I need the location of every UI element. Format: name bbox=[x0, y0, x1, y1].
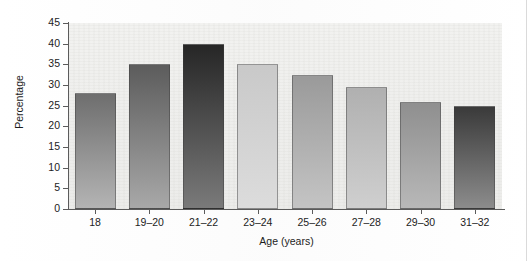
x-axis-label: Age (years) bbox=[68, 235, 505, 247]
x-axis-tick-label: 21–22 bbox=[174, 216, 234, 228]
bar bbox=[454, 106, 495, 209]
y-axis-tick bbox=[63, 188, 68, 189]
y-axis-label: Percentage bbox=[13, 47, 25, 157]
y-axis-tick-label: 0 bbox=[0, 203, 60, 213]
x-axis-tick bbox=[149, 209, 150, 214]
x-axis-tick-label: 29–30 bbox=[391, 216, 451, 228]
y-axis-tick bbox=[63, 209, 68, 210]
x-axis-tick-label: 25–26 bbox=[282, 216, 342, 228]
x-axis-tick bbox=[95, 209, 96, 214]
x-axis-tick-label: 27–28 bbox=[336, 216, 396, 228]
x-axis-tick bbox=[366, 209, 367, 214]
bar bbox=[183, 44, 224, 209]
x-axis-tick-label: 31–32 bbox=[445, 216, 505, 228]
x-axis-tick bbox=[204, 209, 205, 214]
bar-chart: 051015202530354045 1819–2021–2223–2425–2… bbox=[0, 0, 531, 261]
bar-series bbox=[68, 23, 502, 209]
bar bbox=[346, 87, 387, 209]
bar bbox=[400, 102, 441, 209]
y-axis-line bbox=[68, 22, 69, 210]
x-axis-line bbox=[68, 209, 505, 210]
x-axis-tick bbox=[421, 209, 422, 214]
bar bbox=[292, 75, 333, 209]
x-axis-tick-label: 19–20 bbox=[119, 216, 179, 228]
y-axis-label-wrapper: Percentage bbox=[0, 0, 68, 186]
plot-area bbox=[68, 23, 502, 209]
bar bbox=[129, 64, 170, 209]
bar bbox=[75, 93, 116, 209]
x-axis-tick-label: 18 bbox=[65, 216, 125, 228]
x-axis-tick bbox=[475, 209, 476, 214]
x-axis-tick-label: 23–24 bbox=[228, 216, 288, 228]
x-axis-tick bbox=[312, 209, 313, 214]
x-axis-tick bbox=[258, 209, 259, 214]
bar bbox=[237, 64, 278, 209]
